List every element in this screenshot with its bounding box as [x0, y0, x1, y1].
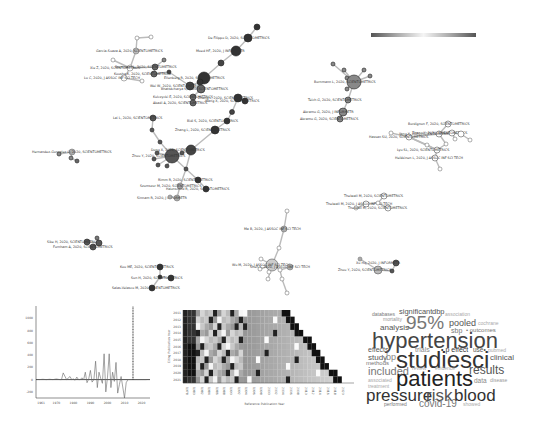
- network-node[interactable]: Thelwall M, 2020, SCIENTOMETRICS: [347, 205, 407, 211]
- word-cloud-term: association: [445, 312, 470, 317]
- network-node[interactable]: Lyu SL, 2020, SCIENTOMETRICS: [397, 147, 449, 153]
- network-node[interactable]: [135, 36, 139, 40]
- network-node[interactable]: Thelwall M, 2020, SCIENTOMETRICS: [343, 193, 403, 199]
- network-node[interactable]: [390, 269, 394, 273]
- heatmap-cell: [282, 350, 286, 357]
- heatmap-cell: [312, 356, 316, 363]
- network-node[interactable]: Salas-Velasco M, 2020, SCIENTOMETRICS: [112, 285, 180, 291]
- network-node[interactable]: Furnham A, 2020, SCIENTOMETRICS: [53, 244, 113, 250]
- network-node[interactable]: [57, 152, 61, 156]
- network-node[interactable]: [438, 167, 442, 171]
- network-node[interactable]: [285, 209, 289, 213]
- network-node[interactable]: [158, 140, 162, 144]
- network-node[interactable]: [167, 70, 171, 74]
- network-node[interactable]: [168, 195, 172, 199]
- network-node[interactable]: [152, 157, 156, 161]
- network-node[interactable]: [218, 60, 224, 66]
- network-node[interactable]: [285, 291, 289, 295]
- heatmap-cell: [303, 370, 307, 377]
- heatmap-cell: [265, 356, 269, 363]
- heatmap-cell: [260, 356, 264, 363]
- network-node[interactable]: Abramo G, 2020, SCIENTOMETRICS: [300, 116, 358, 122]
- network-node[interactable]: Shen Y, 2020, J ASSOC INF SCI TECH: [250, 264, 311, 270]
- network-node[interactable]: [254, 24, 260, 30]
- heatmap-cell: [277, 323, 281, 330]
- heatmap-cell: [222, 370, 226, 377]
- network-node[interactable]: [180, 151, 184, 155]
- network-node[interactable]: [266, 277, 270, 281]
- heatmap-cell: [295, 363, 299, 370]
- network-node[interactable]: Xu Hq, 2020, J INFORMETR: [356, 260, 401, 266]
- network-node[interactable]: Bidi S, 2020, SCIENTOMETRICS: [187, 118, 238, 124]
- network-node[interactable]: Abramo G, 2020, J INFORMETR: [303, 108, 354, 116]
- network-node[interactable]: [453, 137, 457, 141]
- network-node[interactable]: De Filippo D, 2020, SCIENTOMETRICS: [208, 34, 270, 42]
- network-node[interactable]: [368, 74, 372, 78]
- heatmap-cell: [217, 330, 221, 337]
- network-node[interactable]: [277, 246, 281, 250]
- x-tick-label: 1982: [200, 387, 204, 395]
- network-node[interactable]: Bornmann L, 2020, SCIENTOMETRICS: [115, 64, 177, 70]
- network-node[interactable]: Ellenberg R, 2020, SCIENTOMETRICS: [164, 72, 225, 84]
- heatmap-cell: [269, 310, 273, 317]
- network-node[interactable]: [111, 58, 115, 62]
- network-node[interactable]: [458, 131, 464, 137]
- heatmap-cell: [299, 370, 303, 377]
- network-node[interactable]: [444, 142, 448, 146]
- network-node[interactable]: Bordignon F, 2020, SCIENTOMETRICS: [408, 121, 470, 127]
- node-label: Furnham A, 2020, SCIENTOMETRICS: [53, 245, 113, 249]
- network-node[interactable]: [75, 159, 79, 163]
- network-node[interactable]: [149, 35, 153, 39]
- heatmap-cell: [252, 356, 256, 363]
- network-node[interactable]: Haunschild R, 2020, SCIENTOMETRICS: [166, 186, 229, 192]
- network-node[interactable]: Sike H, 2020, SCIENTOMETRICS: [47, 239, 99, 245]
- network-node[interactable]: [140, 79, 144, 83]
- heatmap-cell: [269, 376, 273, 383]
- network-node[interactable]: [468, 138, 472, 142]
- network-node[interactable]: Kousha K, 2020, SCIENTOMETRICS: [114, 71, 171, 77]
- node-circle-icon: [425, 143, 429, 147]
- node-circle-icon: [453, 137, 457, 141]
- network-node[interactable]: [165, 164, 169, 168]
- network-node[interactable]: Zhang L, 2020, SCIENTOMETRICS: [175, 126, 230, 134]
- heatmap-cell: [290, 370, 294, 377]
- network-node[interactable]: Moed HF, 2020, J INFORMETR: [196, 46, 245, 56]
- network-node[interactable]: [280, 277, 284, 281]
- network-node[interactable]: Garcia-Suaza A, 2020, SCIENTOMETRICS: [96, 48, 163, 54]
- network-node[interactable]: Teich G, 2020, SCIENTOMETRICS: [307, 97, 362, 103]
- heatmap-cell: [299, 330, 303, 337]
- heatmap-cell: [204, 363, 208, 370]
- network-node[interactable]: [259, 257, 263, 261]
- network-node[interactable]: [155, 151, 159, 155]
- network-node[interactable]: [362, 68, 366, 72]
- network-node[interactable]: [376, 201, 380, 205]
- heatmap-cell: [243, 356, 247, 363]
- network-node[interactable]: [425, 143, 429, 147]
- network-node[interactable]: Lai L, 2020, SCIENTOMETRICS: [113, 115, 162, 121]
- heatmap-cell: [196, 330, 200, 337]
- network-node[interactable]: [150, 128, 154, 132]
- network-node[interactable]: [69, 156, 73, 160]
- network-node[interactable]: [162, 58, 166, 62]
- network-node[interactable]: [156, 163, 160, 167]
- network-node[interactable]: Ma B, 2020, J ASSOC INF SCI TECH: [244, 226, 301, 232]
- network-node[interactable]: Rimm R, 2020, SCIENTOMETRICS: [158, 177, 213, 183]
- network-node[interactable]: [342, 68, 346, 72]
- network-node[interactable]: [331, 62, 335, 66]
- heatmap-cell: [307, 356, 311, 363]
- heatmap-cell: [269, 350, 273, 357]
- network-node[interactable]: [230, 110, 235, 115]
- network-node[interactable]: Abadi A, 2020, SCIENTOMETRICS: [153, 100, 207, 106]
- network-node[interactable]: [267, 270, 271, 274]
- network-node[interactable]: Hernandez-Gonzalez O, 2020, SCIENTOMETRI…: [32, 149, 112, 155]
- network-node[interactable]: Sun H, 2020, SCIENTOMETRICS: [131, 275, 183, 281]
- network-node[interactable]: Wang X, 2020, SCIENTOMETRICS: [205, 98, 259, 104]
- network-node[interactable]: Heikkinen L, 2020, J ASSOC INF SCI TECH: [395, 155, 463, 161]
- network-node[interactable]: Zhou Y, 2020, SCIENTOMETRICS: [338, 266, 391, 274]
- network-node[interactable]: Sinnam R, 2020, J INFORMETR: [137, 195, 188, 201]
- network-node[interactable]: [345, 87, 349, 91]
- heatmap-cell: [239, 310, 243, 317]
- network-node[interactable]: [184, 167, 188, 171]
- y-tick-label: 2011: [173, 311, 181, 315]
- network-node[interactable]: Kou ME, 2020, SCIENTOMETRICS: [120, 264, 174, 270]
